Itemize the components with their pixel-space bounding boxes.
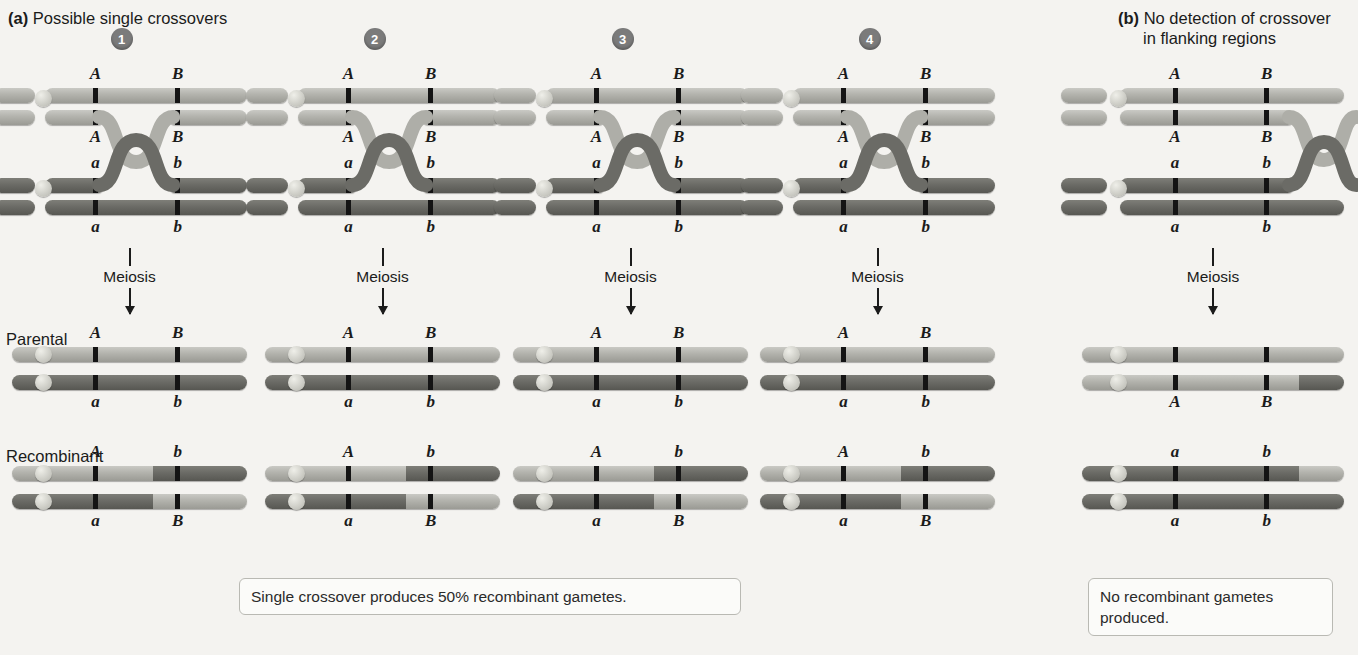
allele-marker-band (93, 494, 98, 509)
centromere-recombinant-2-2 (288, 493, 305, 510)
allele-marker-band (428, 494, 433, 509)
parental-1-label-b: b (166, 392, 190, 412)
centromere-2-bottom (288, 180, 305, 197)
tetrad-3-label-a-inner: a (584, 153, 608, 173)
caption-b-line1: No recombinant gametes (1100, 588, 1273, 605)
tetrad-5-label-b-bottom: b (1255, 217, 1279, 237)
tetrad-3-top-arm-1 (494, 88, 535, 103)
allele-marker-band (923, 347, 928, 362)
tetrad-3-label-a-bottom: a (584, 217, 608, 237)
allele-marker-band (594, 466, 599, 481)
centromere-parental-5-2 (1110, 374, 1127, 391)
allele-marker-band (175, 347, 180, 362)
allele-marker-band (1173, 466, 1178, 481)
tetrad-3-bot-arm-1 (494, 178, 535, 193)
allele-marker-band (1264, 200, 1269, 215)
allele-marker-band (676, 88, 681, 103)
tetrad-3-chromatid-1 (546, 88, 748, 103)
allele-marker-band (175, 178, 180, 193)
panel-b-title-line1: No detection of crossover (1144, 9, 1331, 27)
allele-marker-band (1264, 347, 1269, 362)
allele-marker-band (923, 494, 928, 509)
tetrad-3-chromatid-2-left (546, 110, 606, 125)
tetrad-5-top-arm-1 (1061, 88, 1107, 103)
meiosis-arrow-5: Meiosis (1153, 248, 1273, 314)
caption-panel-a: Single crossover produces 50% recombinan… (239, 578, 741, 615)
centromere-recombinant-1-2 (35, 493, 52, 510)
allele-marker-band (594, 178, 599, 193)
tetrad-5-top-arm-2 (1061, 110, 1107, 125)
allele-marker-band (428, 466, 433, 481)
allele-marker-band (428, 88, 433, 103)
allele-marker-band (923, 466, 928, 481)
meiosis-arrow-icon (877, 288, 879, 314)
tetrad-1-label-B-top: B (166, 64, 190, 84)
tetrad-4-label-B-top: B (914, 64, 938, 84)
tetrad-1-chromatid-4 (45, 200, 247, 215)
centromere-5-bottom (1110, 180, 1127, 197)
allele-marker-band (923, 200, 928, 215)
tetrad-5-label-A-top: A (1163, 64, 1187, 84)
step-badge-1[interactable]: 1 (111, 28, 133, 50)
centromere-recombinant-4-2 (783, 493, 800, 510)
recombinant-4-label-1a: A (831, 442, 855, 462)
meiosis-stem (1212, 248, 1214, 266)
tetrad-2-bot-arm-2 (246, 200, 287, 215)
allele-marker-band (93, 88, 98, 103)
centromere-5-top (1110, 90, 1127, 107)
step-badge-4[interactable]: 4 (859, 28, 881, 50)
centromere-parental-1-1 (35, 346, 52, 363)
chromatid-segment-dark (246, 178, 287, 193)
allele-marker-band (923, 178, 928, 193)
allele-marker-band (175, 466, 180, 481)
allele-marker-band (1264, 110, 1269, 125)
tetrad-1-top-arm-2 (0, 110, 35, 125)
chromatid-segment-dark (0, 200, 35, 215)
tetrad-5-label-b-inner: b (1255, 153, 1279, 173)
tetrad-4-chromatid-3-right (916, 178, 995, 193)
allele-marker-band (1264, 466, 1269, 481)
chromatid-segment-light (760, 466, 901, 481)
tetrad-4-bot-arm-1 (741, 178, 782, 193)
parental-2-label-A: A (336, 323, 360, 343)
tetrad-1-label-b-inner: b (166, 153, 190, 173)
chromatid-segment-dark (1061, 178, 1107, 193)
meiosis-label: Meiosis (70, 266, 190, 288)
allele-marker-band (676, 347, 681, 362)
crossover-strand-3-dark (600, 135, 674, 193)
allele-marker-band (923, 88, 928, 103)
tetrad-2-chromatid-1 (298, 88, 500, 103)
allele-marker-band (841, 375, 846, 390)
chromatid-segment-dark (793, 200, 995, 215)
allele-marker-band (1173, 347, 1178, 362)
tetrad-1-label-a-inner: a (83, 153, 107, 173)
tetrad-1-chromatid-2-right (168, 110, 247, 125)
panel-a-tag: (a) (8, 9, 28, 27)
allele-marker-band (1173, 494, 1178, 509)
allele-marker-band (676, 178, 681, 193)
parental-3-label-A: A (584, 323, 608, 343)
centromere-parental-3-1 (536, 346, 553, 363)
recombinant-3-label-2a: a (584, 511, 608, 531)
meiosis-arrow-3: Meiosis (571, 248, 691, 314)
tetrad-5-label-a-bottom: a (1163, 217, 1187, 237)
centromere-2-top (288, 90, 305, 107)
tetrad-3-top-arm-2 (494, 110, 535, 125)
chromatid-segment-light (1299, 466, 1344, 481)
tetrad-4-label-A-inner: A (831, 127, 855, 147)
tetrad-5-label-A-inner: A (1163, 127, 1187, 147)
allele-marker-band (841, 110, 846, 125)
recombinant-5-label-2b: b (1255, 511, 1279, 531)
meiosis-arrow-icon (129, 288, 131, 314)
tetrad-4-chromatid-3-left (793, 178, 853, 193)
meiosis-label: Meiosis (1153, 266, 1273, 288)
tetrad-5-bot-arm-1 (1061, 178, 1107, 193)
meiosis-stem (877, 248, 879, 266)
tetrad-2-label-A-inner: A (336, 127, 360, 147)
tetrad-4-bot-arm-2 (741, 200, 782, 215)
step-badge-3[interactable]: 3 (612, 28, 634, 50)
chromatid-segment-dark (654, 466, 748, 481)
step-badge-2[interactable]: 2 (364, 28, 386, 50)
chromatid-segment-light (494, 88, 535, 103)
panel-b-tag: (b) (1118, 9, 1139, 27)
